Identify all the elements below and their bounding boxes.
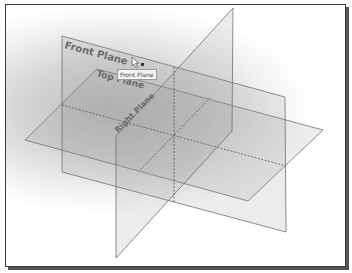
right-plane[interactable]	[116, 8, 233, 258]
planes-drawing: Front Plane Top Plane Right Plane	[0, 0, 352, 273]
tooltip: Front Plane	[117, 69, 157, 80]
